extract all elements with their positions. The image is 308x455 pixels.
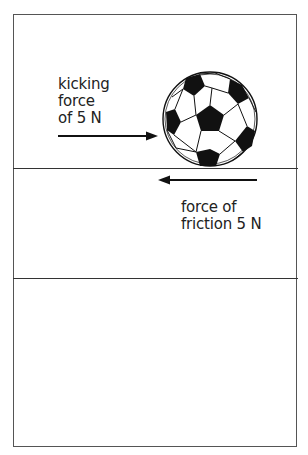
kicking-force-arrow-icon (58, 132, 158, 141)
diagram-graphics (0, 0, 308, 455)
friction-force-arrow-icon (158, 176, 257, 185)
soccer-ball-icon (163, 72, 257, 166)
